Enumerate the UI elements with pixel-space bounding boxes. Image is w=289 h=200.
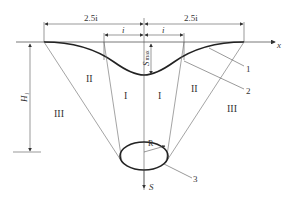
dim-inner-right-label: i (162, 25, 165, 35)
smax-label: Smax (141, 50, 151, 66)
callout-1-leader (209, 48, 244, 66)
zone-iii-left: III (54, 108, 64, 119)
x-axis-label: x (276, 40, 281, 50)
callout-3: 3 (193, 174, 198, 184)
settlement-diagram: x 2.5i 2.5i i i Smax Hi R S II I I II II… (0, 0, 289, 200)
radius-label: R (148, 139, 154, 148)
dim-left-label: 2.5i (84, 13, 98, 23)
zone-boundary-inner-right (166, 42, 184, 162)
zone-i-right: I (158, 90, 161, 101)
dim-right-label: 2.5i (184, 13, 198, 23)
callout-3-leader (164, 164, 192, 178)
zone-i-left: I (124, 90, 127, 101)
callout-1: 1 (246, 64, 251, 74)
zone-ii-right: II (191, 83, 198, 94)
zone-ii-left: II (86, 73, 93, 84)
callout-2: 2 (246, 86, 251, 96)
dim-inner-left-label: i (122, 25, 125, 35)
zone-boundary-inner-left (104, 42, 122, 162)
hi-label: Hi (19, 93, 30, 104)
diagram-svg: x 2.5i 2.5i i i Smax Hi R S II I I II II… (0, 0, 289, 200)
zone-iii-right: III (227, 103, 237, 114)
settlement-axis-label: S (149, 182, 154, 192)
